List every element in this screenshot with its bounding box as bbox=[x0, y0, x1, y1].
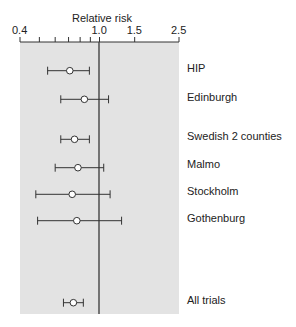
study-label: Swedish 2 counties bbox=[187, 130, 282, 142]
point-estimate-marker bbox=[69, 191, 76, 198]
study-label: Stockholm bbox=[187, 185, 238, 197]
point-estimate-marker bbox=[75, 164, 82, 171]
x-axis-title: Relative risk bbox=[72, 12, 132, 24]
study-label: HIP bbox=[187, 62, 205, 74]
point-estimate-marker bbox=[71, 136, 78, 143]
study-label: Gothenburg bbox=[187, 212, 245, 224]
point-estimate-marker bbox=[66, 67, 73, 74]
point-estimate-marker bbox=[81, 96, 88, 103]
study-label: Malmo bbox=[187, 158, 220, 170]
tick-label: 1.5 bbox=[127, 24, 142, 36]
tick-label: 2.5 bbox=[171, 24, 186, 36]
point-estimate-marker bbox=[74, 217, 81, 224]
tick-label: 1.0 bbox=[92, 24, 107, 36]
x-axis-ticks bbox=[20, 37, 179, 42]
point-estimate-marker bbox=[70, 299, 77, 306]
study-label: All trials bbox=[187, 294, 226, 306]
tick-label: 0.4 bbox=[12, 24, 27, 36]
study-label: Edinburgh bbox=[187, 91, 237, 103]
forest-plot bbox=[0, 0, 296, 327]
